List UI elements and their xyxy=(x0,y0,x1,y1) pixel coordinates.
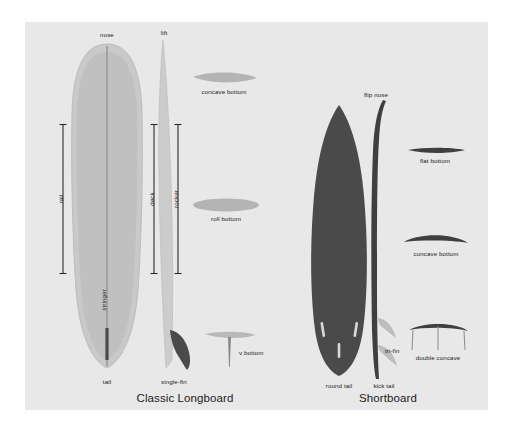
label-single-fin: single-fin xyxy=(161,379,187,385)
label-stringer: stringer xyxy=(101,289,107,310)
shortboard-flat-bottom-shape xyxy=(408,148,465,153)
label-flat-bottom: flat bottom xyxy=(420,158,450,164)
longboard-single-fin xyxy=(170,330,190,370)
shortboard-double-concave-shape xyxy=(409,324,468,350)
label-double-concave: double concave xyxy=(416,355,461,361)
longboard-concave-bottom-shape xyxy=(193,73,257,83)
label-lift: lift xyxy=(161,30,168,36)
label-v-bottom: v bottom xyxy=(239,350,264,356)
shortboard-tri-fin-back xyxy=(378,318,396,338)
title-shortboard: Shortboard xyxy=(359,393,417,405)
label-round-tail: round tail xyxy=(326,383,352,389)
label-tail: tail xyxy=(103,379,111,385)
longboard-plan-view xyxy=(72,44,143,368)
title-classic-longboard: Classic Longboard xyxy=(137,393,234,405)
surfboard-anatomy-diagram: nose tail rail stringer deck rocker lift… xyxy=(0,0,513,429)
shortboard-concave-bottom-shape xyxy=(404,235,468,243)
shortboard-plan-view xyxy=(311,105,367,376)
longboard-roll-bottom-shape xyxy=(193,199,259,212)
shortboard-profile-view xyxy=(371,100,397,379)
label-concave-bottom-longboard: concave bottom xyxy=(201,89,246,95)
label-concave-bottom-shortboard: concave bottom xyxy=(413,251,458,257)
label-kick-tail: kick tail xyxy=(373,383,394,389)
shortboard-fin-slot-center xyxy=(338,343,341,358)
label-nose: nose xyxy=(100,32,114,38)
label-roll-bottom: roll bottom xyxy=(211,216,241,222)
longboard-profile-shape xyxy=(159,40,173,368)
label-deck: deck xyxy=(149,192,155,205)
label-tri-fin: tri-fin xyxy=(385,348,399,354)
label-flip-nose: flip nose xyxy=(364,92,388,98)
diagram-graphics xyxy=(0,0,513,429)
shortboard-profile-shape xyxy=(371,100,386,379)
shortboard-outline xyxy=(311,105,367,376)
label-rail: rail xyxy=(58,195,64,204)
longboard-tail-block xyxy=(105,328,108,360)
label-rocker: rocker xyxy=(173,190,179,208)
